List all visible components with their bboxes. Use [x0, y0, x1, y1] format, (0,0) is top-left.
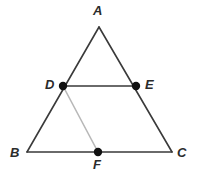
vertex-label-a: A — [93, 4, 102, 17]
vertex-label-e: E — [145, 78, 154, 91]
vertex-label-c: C — [177, 146, 186, 159]
point-d-marker — [59, 82, 67, 90]
point-f-marker — [94, 148, 102, 156]
point-e-marker — [132, 82, 140, 90]
vertex-label-f: F — [93, 158, 101, 171]
geometry-figure: A B C D E F — [0, 0, 200, 179]
segment-df — [63, 86, 98, 152]
triangle-diagram-canvas — [0, 0, 200, 179]
vertex-label-d: D — [45, 78, 54, 91]
vertex-label-b: B — [10, 146, 19, 159]
